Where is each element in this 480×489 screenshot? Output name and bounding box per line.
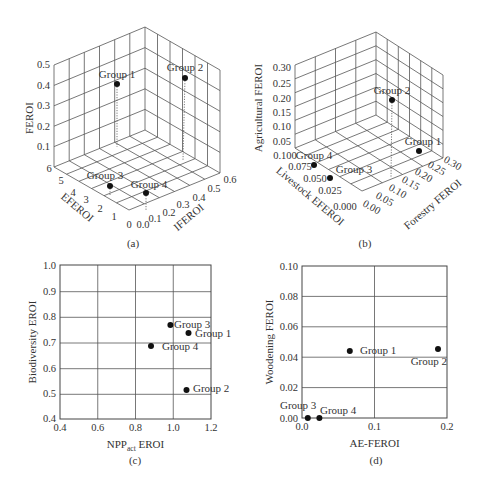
figure: 0.1 0.2 0.3 0.4 0.5 0 1 2 3 4 5 6 0.0 0.… (0, 0, 480, 489)
panel-a: 0.1 0.2 0.3 0.4 0.5 0 1 2 3 4 5 6 0.0 0.… (23, 27, 237, 250)
svg-text:0.100: 0.100 (273, 150, 297, 161)
svg-text:0.04: 0.04 (280, 352, 299, 363)
panel-d-x-label: AE-FEROI (349, 437, 399, 449)
svg-text:1.2: 1.2 (204, 422, 217, 433)
point-group-1 (347, 348, 353, 354)
caption-b: (b) (359, 237, 372, 250)
svg-text:1.0: 1.0 (43, 260, 56, 271)
svg-text:0.0: 0.0 (295, 421, 308, 432)
svg-text:0.06: 0.06 (280, 321, 298, 332)
svg-text:6: 6 (46, 163, 51, 174)
svg-text:0.1: 0.1 (37, 141, 50, 152)
svg-text:0.5: 0.5 (37, 59, 50, 70)
panel-c-x-ticks: 0.4 0.6 0.8 1.0 1.2 (53, 422, 217, 433)
svg-text:Group 3: Group 3 (280, 399, 317, 411)
panel-c-points: Group 3 Group 1 Group 4 Group 2 (148, 318, 231, 394)
svg-text:0.08: 0.08 (280, 291, 298, 302)
svg-text:0.2: 0.2 (162, 207, 175, 218)
point-group-2 (435, 346, 441, 352)
panel-b: 0.05 0.10 0.15 0.20 0.25 0.30 0.000 0.02… (252, 32, 464, 250)
caption-d: (d) (370, 454, 383, 467)
svg-text:0.15: 0.15 (273, 107, 291, 118)
svg-text:0.5: 0.5 (43, 388, 56, 399)
point-group-1 (186, 330, 192, 336)
svg-text:0.6: 0.6 (223, 174, 236, 185)
svg-text:0.20: 0.20 (273, 93, 291, 104)
panel-a-z-ticks: 0.1 0.2 0.3 0.4 0.5 (37, 59, 51, 152)
panel-b-z-ticks: 0.05 0.10 0.15 0.20 0.25 0.30 (273, 62, 291, 147)
svg-text:0.6: 0.6 (91, 422, 104, 433)
svg-text:5: 5 (58, 175, 63, 186)
panel-d-x-ticks: 0.0 0.1 0.2 (295, 421, 453, 432)
caption-c: (c) (129, 454, 142, 467)
point-group-4 (311, 162, 317, 168)
panel-d-points: Group 1 Group 2 Group 3 Group 4 (280, 344, 447, 421)
panel-a-z-label: FEROI (23, 102, 35, 134)
svg-text:0.3: 0.3 (176, 199, 189, 210)
svg-text:Group 2: Group 2 (411, 355, 447, 367)
svg-text:1: 1 (111, 211, 116, 222)
point-group-3 (167, 322, 173, 328)
svg-text:0.4: 0.4 (192, 192, 206, 203)
point-group-1 (114, 81, 120, 87)
panel-d-grid (302, 266, 447, 418)
panel-c-y-ticks: 0.4 0.5 0.6 0.7 0.8 0.9 1.0 (43, 260, 57, 425)
point-group-3 (327, 175, 333, 181)
svg-text:Group 1: Group 1 (195, 327, 231, 339)
point-group-1 (416, 148, 422, 154)
panel-c-x-label: NPPact EROI (107, 438, 165, 453)
point-group-4 (143, 190, 149, 196)
caption-a: (a) (127, 237, 140, 250)
point-group-2 (182, 75, 188, 81)
panel-c: 0.4 0.5 0.6 0.7 0.8 0.9 1.0 0.4 0.6 0.8 … (26, 260, 231, 468)
svg-text:0.4: 0.4 (53, 422, 67, 433)
panel-a-x-label: EFEROI (59, 190, 96, 224)
svg-text:0.3: 0.3 (37, 100, 50, 111)
svg-text:Group 1: Group 1 (405, 135, 441, 147)
svg-text:Group 4: Group 4 (162, 340, 199, 352)
svg-text:0.6: 0.6 (43, 363, 56, 374)
svg-text:Group 2: Group 2 (167, 61, 203, 73)
svg-text:0.5: 0.5 (207, 183, 220, 194)
svg-text:Group 4: Group 4 (131, 178, 168, 190)
svg-text:0.8: 0.8 (43, 311, 56, 322)
point-group-2 (184, 387, 190, 393)
svg-text:0.2: 0.2 (37, 121, 50, 132)
svg-text:0: 0 (126, 219, 131, 230)
panel-c-y-label: Biodiversity EROI (26, 300, 38, 383)
point-group-3 (107, 183, 113, 189)
svg-text:Group 1: Group 1 (99, 68, 135, 80)
svg-text:0.2: 0.2 (440, 421, 453, 432)
svg-text:0.05: 0.05 (273, 136, 291, 147)
point-group-2 (389, 97, 395, 103)
svg-text:0.075: 0.075 (288, 161, 312, 172)
svg-text:Group 4: Group 4 (296, 149, 333, 161)
svg-text:0.10: 0.10 (280, 261, 298, 272)
svg-text:Group 2: Group 2 (374, 84, 410, 96)
svg-text:Group 1: Group 1 (360, 344, 396, 356)
svg-text:0.1: 0.1 (148, 213, 161, 224)
svg-text:0.025: 0.025 (318, 185, 342, 196)
point-group-4 (148, 343, 154, 349)
panel-d: 0.00 0.02 0.04 0.06 0.08 0.10 0.0 0.1 0.… (263, 261, 454, 468)
svg-text:Group 3: Group 3 (87, 169, 124, 181)
svg-text:Group 2: Group 2 (193, 382, 229, 394)
panel-d-y-label: Woodening FEROI (263, 299, 275, 384)
svg-text:0.30: 0.30 (273, 62, 291, 73)
svg-text:Group 3: Group 3 (336, 163, 373, 175)
svg-text:2: 2 (97, 203, 102, 214)
svg-text:0.4: 0.4 (37, 80, 51, 91)
svg-text:0.9: 0.9 (43, 286, 56, 297)
point-group-3 (305, 415, 311, 421)
panel-b-z-label: Agricultural FEROI (252, 64, 264, 153)
svg-text:0.050: 0.050 (303, 173, 327, 184)
svg-text:0.8: 0.8 (129, 422, 142, 433)
svg-text:0.10: 0.10 (273, 121, 291, 132)
svg-text:0.1: 0.1 (368, 421, 381, 432)
svg-text:0.25: 0.25 (273, 78, 291, 89)
svg-text:Group 4: Group 4 (320, 404, 357, 416)
svg-text:0.7: 0.7 (43, 337, 56, 348)
svg-text:1.0: 1.0 (167, 422, 180, 433)
svg-text:0.02: 0.02 (280, 382, 298, 393)
